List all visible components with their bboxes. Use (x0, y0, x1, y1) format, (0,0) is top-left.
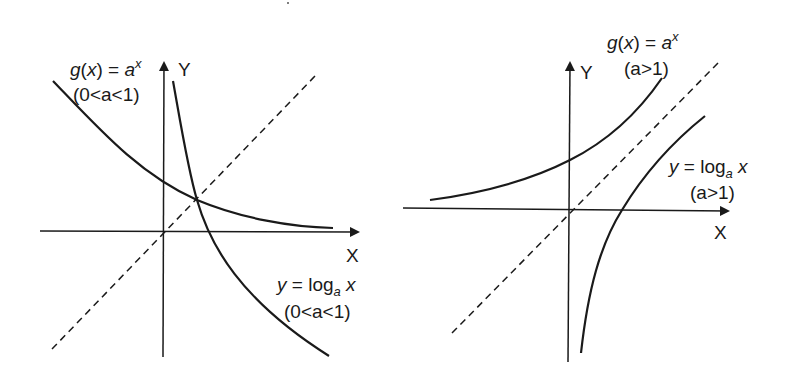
right-graph: Y X g(x) = ax (a>1) y = loga x (a>1) (403, 29, 749, 362)
right-exp-condition: (a>1) (624, 58, 669, 79)
left-exp-label: g(x) = ax (70, 56, 142, 80)
left-log-label: y = loga x (275, 274, 357, 299)
left-exp-condition: (0<a<1) (73, 84, 140, 105)
right-log-curve (581, 116, 705, 353)
left-log-condition: (0<a<1) (284, 301, 351, 322)
right-mirror-line (452, 61, 720, 333)
right-log-condition: (a>1) (690, 182, 735, 203)
right-exp-label: g(x) = ax (607, 29, 679, 53)
left-y-axis (163, 63, 164, 357)
left-x-label: X (346, 245, 359, 266)
right-x-axis (403, 208, 728, 211)
left-mirror-line (52, 75, 316, 349)
scan-speck (287, 2, 289, 4)
left-y-label: Y (178, 59, 191, 80)
left-graph: Y X g(x) = ax (0<a<1) y = loga x (0<a<1) (40, 56, 359, 357)
right-x-label: X (714, 222, 727, 243)
right-log-label: y = loga x (667, 156, 749, 181)
function-graphs: Y X g(x) = ax (0<a<1) y = loga x (0<a<1)… (0, 0, 798, 387)
right-exp-curve (430, 78, 662, 200)
left-x-axis (40, 231, 358, 232)
right-y-label: Y (580, 62, 593, 83)
